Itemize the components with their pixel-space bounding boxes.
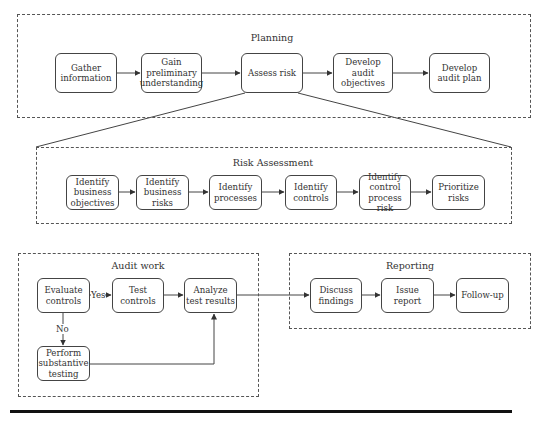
audit-work-title: Audit work	[111, 260, 164, 271]
node-discuss-findings: Discuss findings	[310, 278, 362, 313]
label-no: No	[56, 324, 69, 334]
node-identify-controls: Identify controls	[285, 175, 337, 210]
node-test-controls: Test controls	[112, 278, 164, 313]
node-follow-up: Follow-up	[456, 278, 509, 313]
bottom-rule	[10, 410, 512, 413]
node-prioritize-risks: Prioritize risks	[432, 175, 485, 210]
planning-title: Planning	[251, 32, 294, 43]
node-identify-control-process-risk: Identify control process risk	[359, 175, 411, 210]
node-assess-risk: Assess risk	[241, 53, 303, 93]
label-yes: Yes	[91, 290, 105, 300]
reporting-title: Reporting	[386, 260, 434, 271]
node-identify-business-objectives: Identify business objectives	[66, 175, 119, 210]
node-gain-preliminary-understanding: Gain preliminary understanding	[141, 53, 202, 93]
node-analyze-test-results: Analyze test results	[184, 278, 237, 313]
node-evaluate-controls: Evaluate controls	[37, 278, 90, 313]
node-perform-substantive-testing: Perform substantive testing	[37, 346, 90, 381]
node-gather-information: Gather information	[55, 53, 117, 93]
node-develop-audit-objectives: Develop audit objectives	[333, 53, 393, 93]
node-identify-processes: Identify processes	[209, 175, 262, 210]
node-issue-report: Issue report	[381, 278, 434, 313]
node-develop-audit-plan: Develop audit plan	[429, 53, 490, 93]
risk-assessment-title: Risk Assessment	[233, 157, 313, 168]
node-identify-business-risks: Identify business risks	[136, 175, 189, 210]
